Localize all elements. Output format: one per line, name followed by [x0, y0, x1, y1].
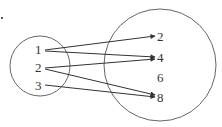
- domain-element-3: 3: [35, 78, 42, 93]
- codomain-element-2: 2: [157, 29, 164, 44]
- codomain-element-6: 6: [157, 70, 164, 85]
- domain-element-2: 2: [35, 60, 42, 75]
- codomain-element-4: 4: [157, 50, 164, 65]
- arrow-1-to-4: [45, 51, 155, 57]
- arrow-1-to-2: [45, 36, 155, 50]
- mapping-diagram: 1 2 3 2 4 6 8: [0, 0, 222, 127]
- codomain-element-8: 8: [157, 90, 164, 105]
- dot-mark: [1, 17, 3, 19]
- domain-element-1: 1: [35, 42, 42, 57]
- arrow-2-to-4: [45, 59, 155, 68]
